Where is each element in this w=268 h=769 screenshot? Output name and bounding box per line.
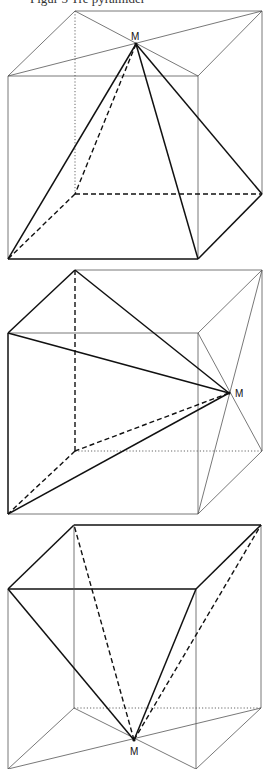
thick-edge (136, 44, 262, 194)
dashed-edge (134, 525, 261, 740)
thin-edge (8, 708, 74, 769)
thin-edge (198, 11, 262, 76)
cube-figure-2: M (8, 270, 262, 514)
apex-label: M (235, 388, 243, 399)
apex-point (227, 391, 230, 394)
apex-label: M (130, 746, 138, 757)
thick-edge (8, 333, 229, 393)
cube-figure-3: M (8, 525, 261, 769)
thick-edge (8, 393, 229, 514)
apex-point (132, 738, 135, 741)
thin-edge (196, 708, 261, 769)
thick-edge (8, 525, 74, 589)
dashed-edge (75, 393, 229, 451)
cube-figure-1: M (8, 11, 262, 259)
thick-edge (134, 589, 196, 740)
dashed-edge (75, 44, 136, 194)
thick-edge (8, 270, 75, 333)
thin-edge (8, 11, 75, 76)
thin-edge (198, 270, 262, 333)
apex-point (134, 42, 137, 45)
thin-edge (198, 451, 262, 514)
thick-edge (75, 270, 229, 393)
apex-label: M (131, 31, 139, 42)
thick-edge (198, 194, 262, 259)
pyramid-in-cube-diagram: M M M (0, 0, 268, 769)
thick-edge (8, 589, 134, 740)
